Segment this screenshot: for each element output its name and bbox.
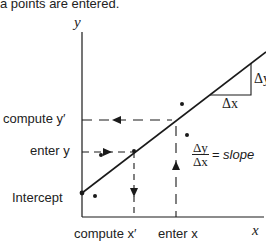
arrow-left-icon xyxy=(112,116,121,124)
data-point xyxy=(180,102,184,106)
slope-denominator: Δx xyxy=(193,155,208,168)
slope-equation: Δy Δx = slope xyxy=(192,141,254,168)
slope-word: slope xyxy=(223,147,254,162)
regression-line xyxy=(82,52,266,193)
slope-equals: = slope xyxy=(212,147,254,162)
data-point xyxy=(93,194,97,198)
delta-x-label: Δx xyxy=(222,96,238,112)
x-axis-label: x xyxy=(252,222,259,239)
compute-x-label: compute x′ xyxy=(74,226,136,241)
intercept-point xyxy=(80,191,85,196)
compute-y-label: compute y′ xyxy=(3,111,65,126)
arrow-down-icon xyxy=(130,188,138,197)
enter-y-label: enter y xyxy=(30,143,70,158)
slope-numerator: Δy xyxy=(192,141,209,155)
enter-x-label: enter x xyxy=(158,226,198,241)
intercept-label: Intercept xyxy=(12,190,63,205)
equals-sign: = xyxy=(212,147,223,162)
slope-fraction: Δy Δx xyxy=(192,141,209,168)
data-point xyxy=(132,149,136,153)
data-point xyxy=(99,153,103,157)
data-point xyxy=(185,133,189,137)
arrow-right-icon xyxy=(103,148,112,156)
y-axis-label: y xyxy=(74,14,81,31)
arrow-up-icon xyxy=(172,161,180,170)
delta-y-label: Δy xyxy=(254,71,266,87)
